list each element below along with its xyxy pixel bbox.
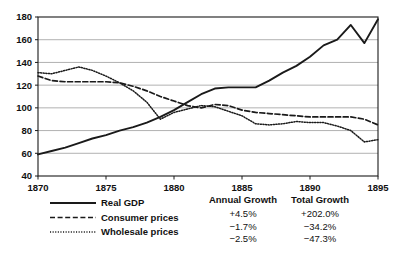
total-growth-real-gdp: +202.0%	[301, 208, 339, 219]
y-tick-label-80: 80	[21, 125, 32, 136]
total-growth-wholesale-prices: −47.3%	[304, 233, 337, 244]
x-tick-label-1880: 1880	[163, 182, 184, 193]
line-chart: 406080100120140160180 187018751880188518…	[0, 0, 400, 259]
total-growth-consumer-prices: −34.2%	[304, 221, 337, 232]
y-tick-label-140: 140	[16, 57, 32, 68]
annotation-column-header-0: Annual Growth	[209, 194, 277, 205]
annual-growth-wholesale-prices: −2.5%	[229, 233, 257, 244]
y-tick-label-160: 160	[16, 34, 32, 45]
x-tick-label-1895: 1895	[367, 182, 389, 193]
x-tick-label-1885: 1885	[231, 182, 253, 193]
chart-figure: 406080100120140160180 187018751880188518…	[0, 0, 400, 259]
legend-label-wholesale-prices: Wholesale prices	[101, 226, 179, 237]
y-tick-label-180: 180	[16, 11, 32, 22]
x-tick-label-1870: 1870	[27, 182, 48, 193]
y-tick-label-60: 60	[21, 148, 32, 159]
legend-label-consumer-prices: Consumer prices	[101, 212, 179, 223]
annual-growth-real-gdp: +4.5%	[229, 208, 257, 219]
annotation-column-header-1: Total Growth	[291, 194, 349, 205]
y-tick-label-120: 120	[16, 80, 32, 91]
y-tick-label-40: 40	[21, 170, 32, 181]
legend-label-real-gdp: Real GDP	[101, 197, 145, 208]
x-tick-label-1890: 1890	[299, 182, 320, 193]
annual-growth-consumer-prices: −1.7%	[229, 221, 257, 232]
chart-background	[0, 0, 400, 259]
x-tick-label-1875: 1875	[95, 182, 117, 193]
y-tick-label-100: 100	[16, 102, 32, 113]
